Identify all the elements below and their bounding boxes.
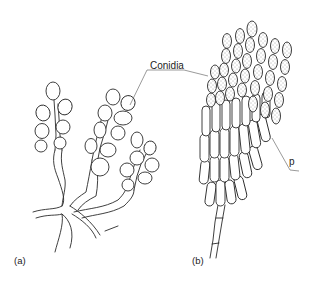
- panel-a-drawing: [33, 82, 159, 252]
- diagram-drawing: [0, 0, 310, 281]
- conidiophore-figure: Conidia p (a) (b): [0, 0, 310, 281]
- panel-b-drawing: [199, 21, 299, 258]
- phialide-label: p: [289, 157, 295, 167]
- conidia-label: Conidia: [150, 61, 184, 71]
- panel-a-label: (a): [14, 256, 26, 266]
- panel-b-label: (b): [192, 256, 204, 266]
